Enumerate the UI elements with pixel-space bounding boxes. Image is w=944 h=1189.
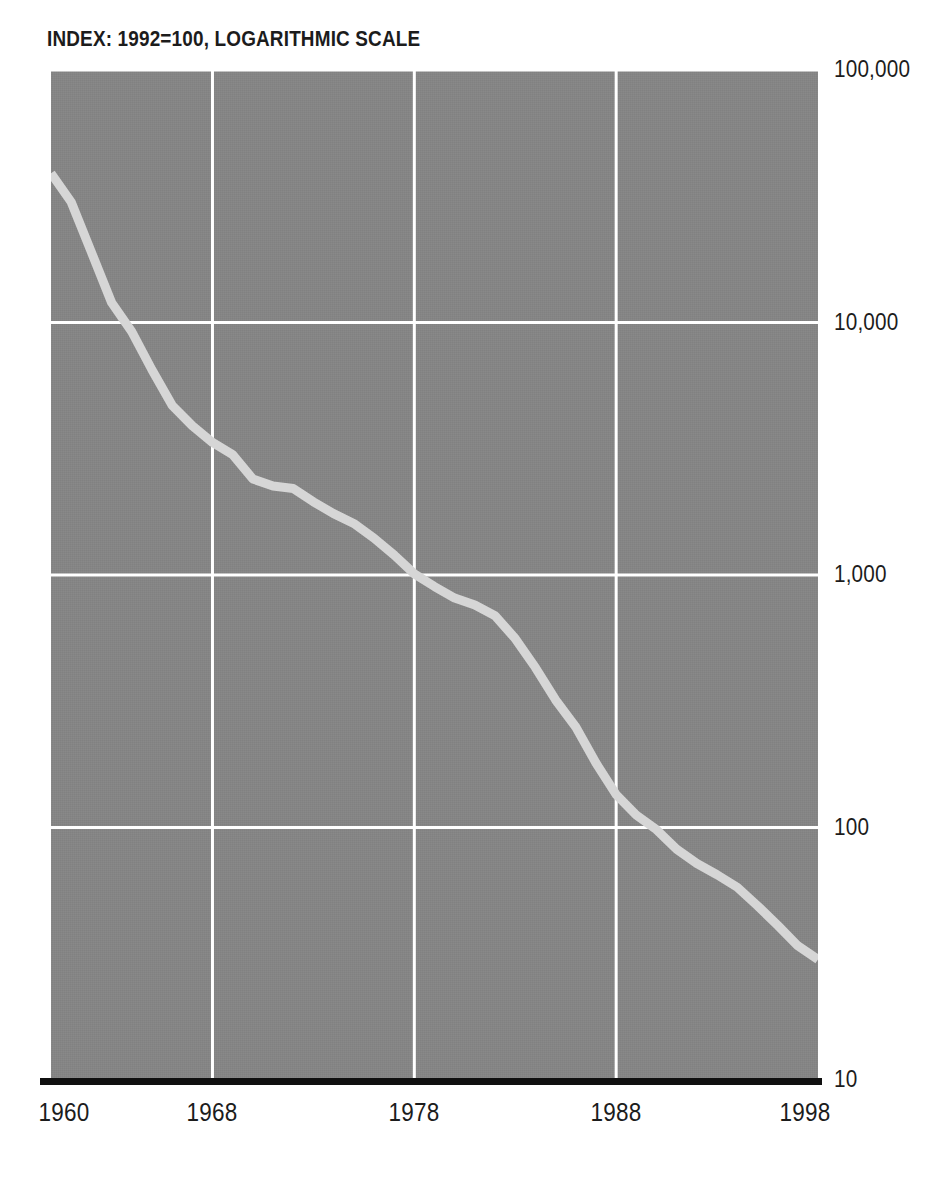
- plot-area: [51, 70, 818, 1080]
- x-axis-tick-label: 1960: [38, 1098, 89, 1127]
- series-polyline: [51, 173, 818, 959]
- chart-title-fragment: [85, 0, 859, 4]
- x-axis-tick-label: 1988: [591, 1098, 642, 1127]
- y-axis-tick-label: 1,000: [834, 561, 887, 588]
- y-axis-tick-label: 100,000: [834, 56, 910, 83]
- x-axis-tick-label: 1968: [187, 1098, 238, 1127]
- x-axis-baseline: [40, 1078, 822, 1085]
- horizontal-gridlines: [51, 70, 818, 828]
- chart-subtitle: INDEX: 1992=100, LOGARITHMIC SCALE: [47, 26, 420, 52]
- plot-svg: [51, 70, 818, 1080]
- y-axis-tick-label: 10: [834, 1066, 857, 1093]
- x-axis-tick-label: 1978: [389, 1098, 440, 1127]
- y-axis-tick-label: 100: [834, 814, 869, 841]
- data-series-line: [51, 173, 818, 959]
- x-axis-tick-label: 1998: [779, 1098, 830, 1127]
- y-axis-tick-label: 10,000: [834, 309, 898, 336]
- chart-container: INDEX: 1992=100, LOGARITHMIC SCALE 100,0…: [0, 0, 944, 1189]
